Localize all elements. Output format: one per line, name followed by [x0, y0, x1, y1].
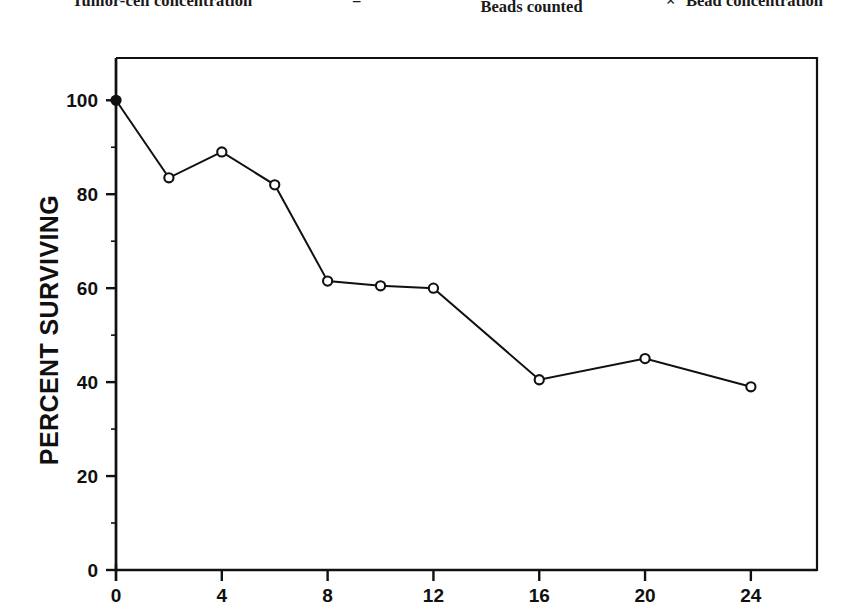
data-point-x20	[640, 354, 649, 363]
data-point-x8	[323, 277, 332, 286]
x-tick-label-20: 20	[634, 585, 655, 606]
y-tick-label-20: 20	[77, 466, 98, 487]
data-point-x6	[270, 180, 279, 189]
y-tick-label-60: 60	[77, 278, 98, 299]
series-markers-percent-surviving	[111, 96, 755, 392]
x-tick-label-4: 4	[217, 585, 228, 606]
line-chart-figure: 020406080100 04812162024 PERCENT SURVIVI…	[0, 0, 860, 610]
data-point-x16	[535, 375, 544, 384]
y-tick-label-80: 80	[77, 184, 98, 205]
chart-canvas: 020406080100 04812162024 PERCENT SURVIVI…	[0, 0, 860, 610]
data-point-x0	[111, 96, 120, 105]
x-axis-ticks	[116, 564, 751, 581]
x-tick-label-24: 24	[740, 585, 762, 606]
y-axis-title: PERCENT SURVIVING	[35, 195, 63, 465]
x-axis-tick-labels: 04812162024	[111, 585, 762, 606]
series-line-percent-surviving	[116, 100, 751, 387]
x-tick-label-0: 0	[111, 585, 122, 606]
y-axis-ticks	[106, 100, 116, 570]
plot-frame	[116, 58, 817, 570]
y-tick-label-100: 100	[66, 90, 98, 111]
axis-lines	[116, 58, 817, 570]
data-point-x4	[217, 147, 226, 156]
data-series-group	[111, 96, 755, 392]
x-tick-label-8: 8	[322, 585, 333, 606]
y-axis-tick-labels: 020406080100	[66, 90, 98, 581]
data-point-x2	[164, 173, 173, 182]
data-point-x10	[376, 281, 385, 290]
y-tick-label-40: 40	[77, 372, 98, 393]
data-point-x12	[429, 284, 438, 293]
x-tick-label-16: 16	[529, 585, 550, 606]
y-tick-label-0: 0	[87, 560, 98, 581]
data-point-x24	[746, 382, 755, 391]
x-tick-label-12: 12	[423, 585, 444, 606]
